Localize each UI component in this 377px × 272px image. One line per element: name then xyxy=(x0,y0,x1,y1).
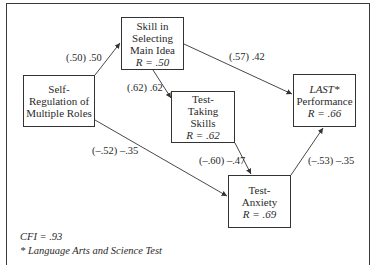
node-text: Skills xyxy=(190,117,215,129)
edge-label-selfreg-skill: (.50) .50 xyxy=(66,52,102,63)
arrow-anxiety-to-last xyxy=(291,128,323,175)
node-test-anxiety: Test- Anxiety R = .69 xyxy=(228,175,291,228)
node-r-value: R = .66 xyxy=(308,107,341,119)
node-test-taking-skills: Test- Taking Skills R = .62 xyxy=(171,91,235,143)
node-text: LAST* xyxy=(310,83,340,95)
fit-index: CFI = .93 xyxy=(20,231,62,242)
node-text: Regulation of xyxy=(29,95,89,107)
edge-label-selfreg-anxiety: (–.52) –.35 xyxy=(92,145,138,156)
node-text: Multiple Roles xyxy=(26,107,92,119)
node-text: Skill in xyxy=(136,20,168,32)
node-text: Test- xyxy=(249,184,271,196)
edge-label-skill-testtaking: (.62) .62 xyxy=(127,82,163,93)
node-text: Test- xyxy=(192,93,214,105)
node-text: Performance xyxy=(296,95,352,107)
node-text: Self- xyxy=(48,83,69,95)
node-last-performance: LAST* Performance R = .66 xyxy=(293,74,356,127)
node-self-regulation: Self- Regulation of Multiple Roles xyxy=(23,75,95,127)
node-text: Taking xyxy=(188,105,218,117)
node-r-value: R = .69 xyxy=(243,208,276,220)
edge-label-skill-last: (.57) .42 xyxy=(229,51,265,62)
node-text: Selecting xyxy=(132,32,173,44)
node-skill-main-idea: Skill in Selecting Main Idea R = .50 xyxy=(121,17,184,70)
node-r-value: R = .50 xyxy=(136,56,169,68)
edge-label-anxiety-last: (–.53) –.35 xyxy=(308,155,354,166)
node-r-value: R = .62 xyxy=(186,129,219,141)
edge-label-testtaking-anxiety: (–.60) –.47 xyxy=(199,155,245,166)
node-text: Anxiety xyxy=(242,196,277,208)
node-text: Main Idea xyxy=(130,44,175,56)
footnote: * Language Arts and Science Test xyxy=(20,245,162,256)
